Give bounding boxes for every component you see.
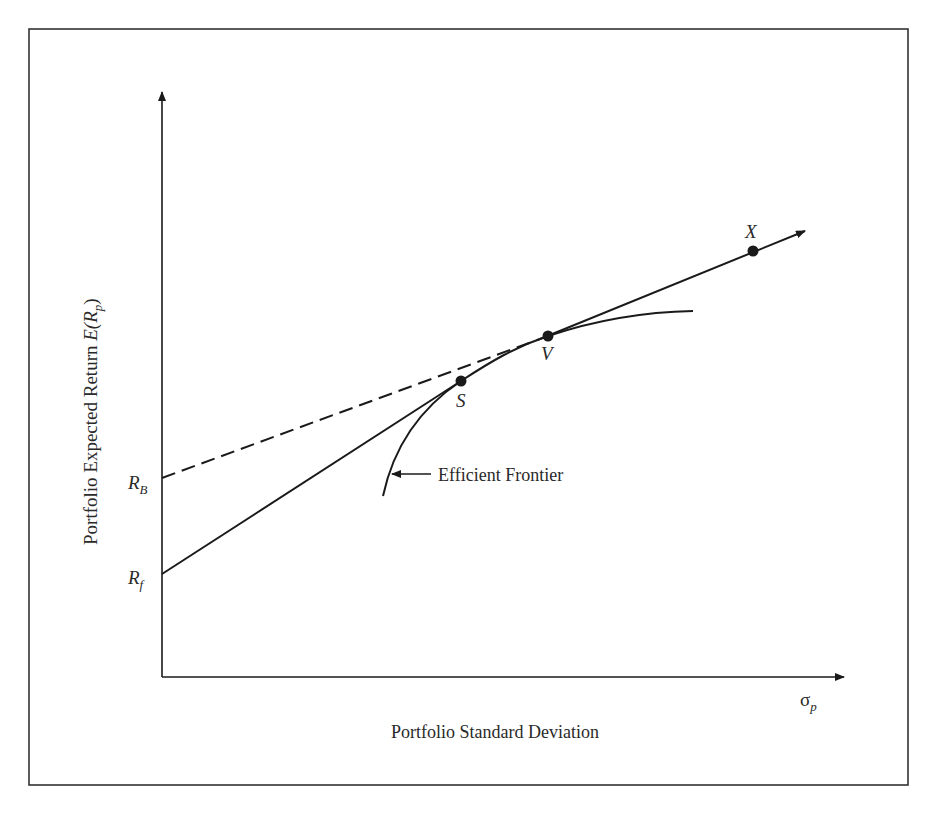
label-X: X — [744, 221, 758, 242]
figure-frame — [29, 29, 908, 785]
borrowing-line-dashed — [162, 339, 540, 478]
label-V: V — [541, 343, 555, 364]
point-S — [456, 376, 467, 387]
x-axis-label: Portfolio Standard Deviation — [391, 722, 599, 742]
point-X — [748, 246, 759, 257]
label-RB: RB — [127, 472, 148, 497]
lending-line — [162, 381, 461, 574]
y-axis-label: Portfolio Expected Return E(Rp) — [80, 298, 105, 545]
x-axis-symbol: σp — [800, 689, 817, 714]
capital-market-line-upper — [540, 231, 805, 339]
point-V — [543, 331, 554, 342]
label-S: S — [456, 390, 466, 411]
label-Rf: Rf — [127, 567, 146, 592]
diagram-canvas: S V X Efficient Frontier RB Rf Portfolio… — [0, 0, 930, 824]
efficient-frontier-label: Efficient Frontier — [438, 465, 563, 485]
